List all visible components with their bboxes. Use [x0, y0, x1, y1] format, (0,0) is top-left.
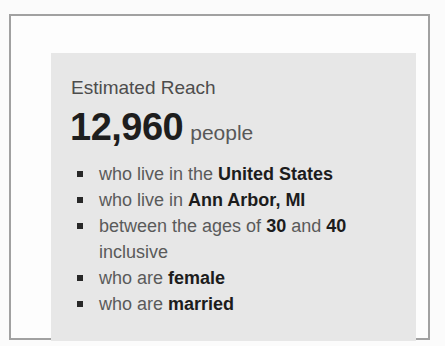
- criteria-text: who are female: [99, 265, 225, 291]
- criteria-segment: who live in: [99, 190, 188, 210]
- criteria-text: between the ages of 30 and 40 inclusive: [99, 213, 401, 265]
- criteria-text: who are married: [99, 291, 234, 317]
- criteria-segment: who live in the: [99, 164, 218, 184]
- criteria-bold-segment: United States: [218, 164, 333, 184]
- criteria-bold-segment: female: [168, 268, 225, 288]
- bullet-square-icon: [77, 197, 83, 203]
- criteria-bold-segment: 30: [266, 216, 286, 236]
- criteria-item: who are female: [77, 265, 416, 291]
- criteria-bold-segment: 40: [326, 216, 346, 236]
- criteria-item: who are married: [77, 291, 416, 317]
- bullet-square-icon: [77, 275, 83, 281]
- criteria-item: between the ages of 30 and 40 inclusive: [77, 213, 416, 265]
- criteria-item: who live in Ann Arbor, MI: [77, 187, 416, 213]
- criteria-segment: who are: [99, 268, 168, 288]
- criteria-text: who live in the United States: [99, 161, 333, 187]
- panel-title: Estimated Reach: [71, 76, 416, 99]
- reach-unit: people: [190, 121, 253, 144]
- bullet-square-icon: [77, 223, 83, 229]
- estimated-reach-panel: Estimated Reach 12,960people who live in…: [51, 53, 416, 341]
- criteria-segment: inclusive: [99, 242, 168, 262]
- bullet-square-icon: [77, 171, 83, 177]
- reach-summary: 12,960people: [70, 106, 416, 148]
- criteria-text: who live in Ann Arbor, MI: [99, 187, 305, 213]
- criteria-bold-segment: married: [168, 294, 234, 314]
- criteria-segment: between the ages of: [99, 216, 266, 236]
- targeting-criteria-list: who live in the United Stateswho live in…: [77, 161, 416, 317]
- criteria-segment: who are: [99, 294, 168, 314]
- criteria-segment: and: [286, 216, 326, 236]
- criteria-bold-segment: Ann Arbor, MI: [188, 190, 305, 210]
- criteria-item: who live in the United States: [77, 161, 416, 187]
- bullet-square-icon: [77, 301, 83, 307]
- reach-count: 12,960: [70, 106, 183, 148]
- screenshot-frame: Estimated Reach 12,960people who live in…: [9, 14, 430, 340]
